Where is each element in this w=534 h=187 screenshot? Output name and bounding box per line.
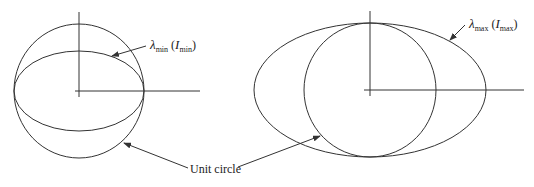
lambda-min-label: λmin (Imin) (150, 38, 196, 54)
left-figure (14, 12, 200, 168)
right-figure (238, 11, 524, 167)
lambda-max-arrow (450, 25, 465, 40)
diagram-canvas: λmin (Imin) λmax (Imax) Unit circle (0, 0, 534, 187)
unit-circle-arrow-right (238, 136, 320, 167)
lambda-max-label: λmax (Imax) (469, 17, 518, 33)
diagram-svg (0, 0, 534, 187)
unit-circle-arrow-left (124, 143, 188, 168)
unit-circle-label: Unit circle (190, 163, 241, 175)
